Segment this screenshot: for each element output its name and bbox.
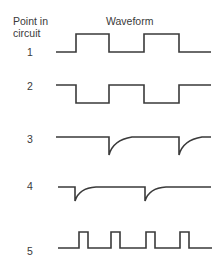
waveform-diagram	[0, 0, 224, 267]
waveform-1	[56, 34, 211, 52]
waveform-5	[58, 232, 212, 248]
waveform-3	[56, 137, 211, 155]
waveform-2	[56, 85, 211, 103]
waveform-4	[58, 187, 211, 201]
